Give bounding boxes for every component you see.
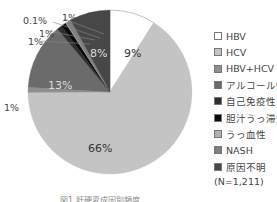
legend-swatch: [214, 146, 222, 154]
legend-swatch: [214, 81, 222, 89]
label-hbv: 9%: [124, 47, 141, 60]
legend-label: 自己免疫性: [226, 94, 276, 108]
legend-item: 原因不明: [214, 158, 277, 174]
legend-item: HBV+HCV: [214, 61, 277, 77]
legend-label: うっ血性: [226, 127, 266, 141]
legend-swatch: [214, 65, 222, 73]
legend-item: HBV: [214, 28, 277, 44]
legend-swatch: [214, 97, 222, 105]
label-biliary: 1%: [39, 28, 54, 39]
legend: HBVHCVHBV+HCVアルコール性自己免疫性胆汁うっ滞型うっ血性NASH原因…: [214, 28, 277, 187]
figure-caption: 図1 肝硬変成因別頻度: [60, 194, 140, 202]
label-unknown: 8%: [90, 47, 107, 60]
legend-label: 原因不明: [226, 160, 266, 174]
sample-size-note: (N=1,211): [214, 176, 277, 187]
legend-item: 自己免疫性: [214, 93, 277, 109]
legend-label: HCV: [226, 47, 246, 58]
legend-label: NASH: [226, 145, 253, 156]
legend-swatch: [214, 163, 222, 171]
legend-item: NASH: [214, 142, 277, 158]
legend-item: アルコール性: [214, 77, 277, 93]
legend-swatch: [214, 32, 222, 40]
label-congestive: 0.1%: [23, 15, 47, 26]
legend-label: HBV+HCV: [226, 63, 274, 74]
label-hbv-hcv: 1%: [4, 102, 19, 113]
legend-label: 胆汁うっ滞型: [226, 111, 277, 125]
label-nash: 1%: [62, 12, 77, 23]
legend-swatch: [214, 130, 222, 138]
legend-swatch: [214, 48, 222, 56]
label-alcohol: 13%: [48, 79, 72, 92]
label-hcv: 66%: [88, 142, 112, 155]
legend-item: 胆汁うっ滞型: [214, 109, 277, 125]
legend-label: HBV: [226, 31, 246, 42]
legend-label: アルコール性: [226, 78, 277, 92]
legend-item: HCV: [214, 44, 277, 60]
legend-item: うっ血性: [214, 126, 277, 142]
legend-swatch: [214, 114, 222, 122]
